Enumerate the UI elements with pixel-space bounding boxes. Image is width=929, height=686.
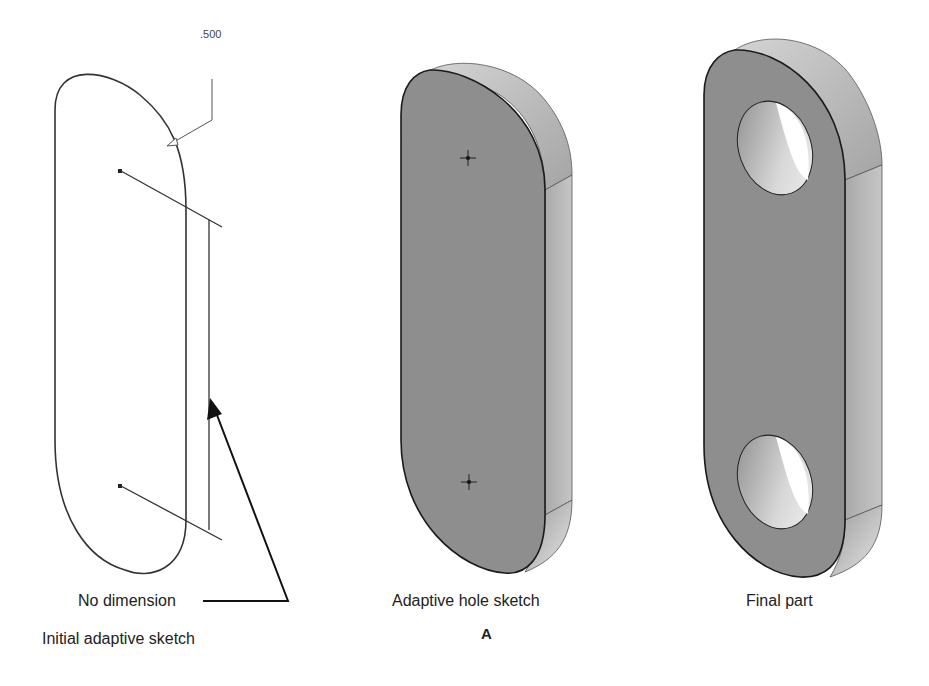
front-face bbox=[401, 70, 545, 573]
leader-arrow-icon bbox=[167, 138, 178, 146]
hole-sketch-part bbox=[401, 63, 572, 573]
caption-final-part: Final part bbox=[746, 592, 813, 610]
caption-adaptive-hole-sketch: Adaptive hole sketch bbox=[392, 592, 540, 610]
callout-label-no-dimension: No dimension bbox=[78, 592, 176, 610]
panel-sublabel-a: A bbox=[481, 625, 492, 642]
callout-leader bbox=[203, 402, 288, 601]
dimension-value: .500 bbox=[200, 28, 221, 40]
caption-initial-adaptive-sketch: Initial adaptive sketch bbox=[42, 630, 195, 648]
figure-canvas bbox=[0, 0, 929, 686]
final-part bbox=[704, 39, 882, 577]
initial-sketch-drawing bbox=[55, 74, 288, 601]
sketch-outline bbox=[55, 74, 186, 573]
dimension-leader bbox=[172, 79, 212, 143]
